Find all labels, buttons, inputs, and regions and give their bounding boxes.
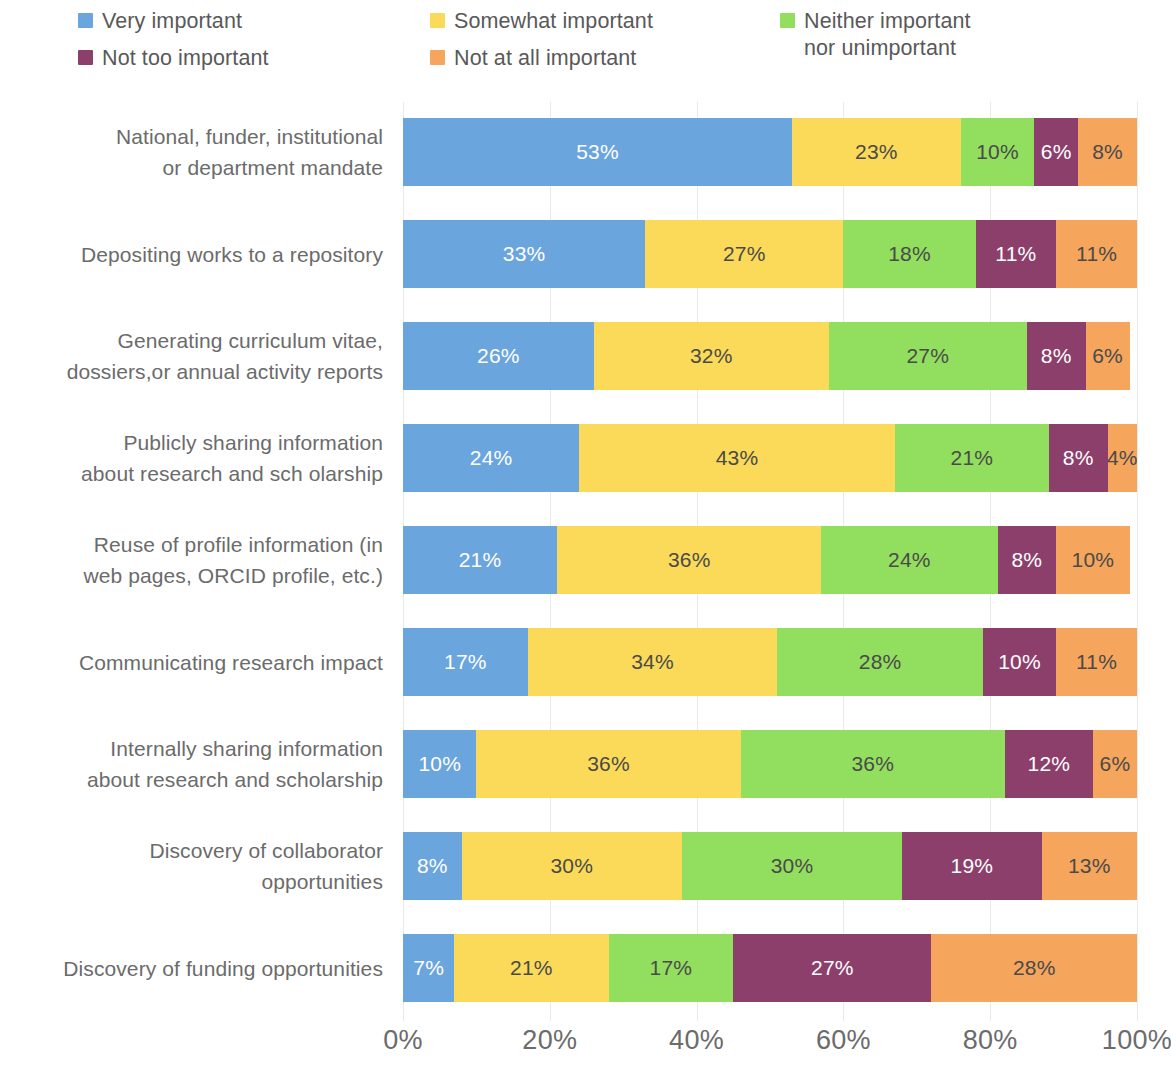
- bar-segment: 53%: [403, 118, 792, 186]
- bar-segment-value: 27%: [811, 956, 854, 980]
- category-label-line: opportunities: [261, 866, 383, 897]
- bar-segment-value: 8%: [417, 854, 448, 878]
- category-label-line: Depositing works to a repository: [81, 239, 383, 270]
- bar-segment: 10%: [961, 118, 1034, 186]
- bar-row: Discovery of funding opportunities7%21%1…: [0, 934, 1171, 1002]
- bar-segment-value: 34%: [631, 650, 674, 674]
- stacked-bar: 17%34%28%10%11%: [403, 628, 1137, 696]
- stacked-bar: 21%36%24%8%10%: [403, 526, 1137, 594]
- bar-segment: 11%: [1056, 628, 1137, 696]
- bar-segment-value: 12%: [1028, 752, 1071, 776]
- category-label: Publicly sharing informationabout resear…: [0, 424, 383, 492]
- bar-segment-value: 10%: [998, 650, 1041, 674]
- legend-item-label: Very important: [102, 8, 242, 35]
- legend-swatch-very-important: [78, 13, 93, 28]
- bar-segment-value: 23%: [855, 140, 898, 164]
- bar-segment: 32%: [594, 322, 829, 390]
- bar-segment-value: 8%: [1011, 548, 1042, 572]
- bar-segment: 11%: [1056, 220, 1137, 288]
- bar-segment-value: 30%: [771, 854, 814, 878]
- bar-segment-value: 4%: [1108, 446, 1137, 470]
- stacked-bar: 8%30%30%19%13%: [403, 832, 1137, 900]
- bar-segment: 30%: [462, 832, 682, 900]
- bar-segment: 4%: [1108, 424, 1137, 492]
- bar-segment-value: 11%: [1076, 242, 1117, 266]
- bar-segment: 8%: [998, 526, 1057, 594]
- bar-segment-value: 18%: [888, 242, 931, 266]
- bar-segment: 26%: [403, 322, 594, 390]
- bar-segment-value: 8%: [1092, 140, 1123, 164]
- legend-item-0[interactable]: Very important: [78, 8, 242, 35]
- bar-segment-value: 17%: [650, 956, 693, 980]
- legend-item-label: Not at all important: [454, 45, 636, 72]
- category-label-line: dossiers,or annual activity reports: [67, 356, 383, 387]
- bar-segment: 6%: [1034, 118, 1078, 186]
- bar-segment-value: 21%: [459, 548, 502, 572]
- bar-segment: 6%: [1093, 730, 1137, 798]
- category-label-line: National, funder, institutional: [116, 121, 383, 152]
- bar-segment-value: 10%: [418, 752, 461, 776]
- x-axis-tick-label: 20%: [522, 1025, 577, 1056]
- category-label-line: Discovery of funding opportunities: [63, 953, 383, 984]
- bar-row: National, funder, institutionalor depart…: [0, 118, 1171, 186]
- bar-segment: 28%: [777, 628, 983, 696]
- bar-segment-value: 32%: [690, 344, 733, 368]
- bar-segment: 30%: [682, 832, 902, 900]
- bar-segment: 8%: [1049, 424, 1108, 492]
- bar-segment: 43%: [579, 424, 895, 492]
- x-axis-tick-label: 60%: [816, 1025, 871, 1056]
- bar-row: Communicating research impact17%34%28%10…: [0, 628, 1171, 696]
- legend-swatch-not-too-important: [78, 50, 93, 65]
- category-label: Depositing works to a repository: [0, 220, 383, 288]
- x-axis-tick-label: 0%: [383, 1025, 423, 1056]
- bar-segment-value: 19%: [951, 854, 994, 878]
- legend-item-label: Neither important nor unimportant: [804, 8, 971, 62]
- bar-segment-value: 11%: [995, 242, 1036, 266]
- category-label-line: Discovery of collaborator: [149, 835, 383, 866]
- bar-row: Publicly sharing informationabout resear…: [0, 424, 1171, 492]
- legend-item-label: Not too important: [102, 45, 269, 72]
- bar-segment: 28%: [931, 934, 1137, 1002]
- stacked-bar-chart: Very importantSomewhat importantNeither …: [0, 0, 1171, 1073]
- bar-segment-value: 36%: [587, 752, 630, 776]
- bar-segment: 12%: [1005, 730, 1093, 798]
- legend-item-2[interactable]: Neither important nor unimportant: [780, 8, 971, 62]
- bar-segment-value: 24%: [888, 548, 931, 572]
- category-label-line: Communicating research impact: [79, 647, 383, 678]
- bar-segment-value: 11%: [1076, 650, 1117, 674]
- bar-segment-value: 6%: [1041, 140, 1072, 164]
- bar-segment-value: 21%: [951, 446, 994, 470]
- x-axis-tick-label: 40%: [669, 1025, 724, 1056]
- bar-row: Depositing works to a repository33%27%18…: [0, 220, 1171, 288]
- category-label: Discovery of collaboratoropportunities: [0, 832, 383, 900]
- bar-segment: 24%: [821, 526, 997, 594]
- bar-segment: 34%: [528, 628, 778, 696]
- bar-segment: 24%: [403, 424, 579, 492]
- legend-swatch-neither-important: [780, 13, 795, 28]
- bar-segment-value: 28%: [859, 650, 902, 674]
- bar-segment-value: 27%: [723, 242, 766, 266]
- bar-segment-value: 7%: [413, 956, 444, 980]
- legend-item-4[interactable]: Not at all important: [430, 45, 636, 72]
- legend-item-3[interactable]: Not too important: [78, 45, 269, 72]
- category-label: Internally sharing informationabout rese…: [0, 730, 383, 798]
- category-label-line: web pages, ORCID profile, etc.): [83, 560, 383, 591]
- stacked-bar: 10%36%36%12%6%: [403, 730, 1137, 798]
- bar-segment-value: 36%: [851, 752, 894, 776]
- bar-segment-value: 53%: [576, 140, 619, 164]
- bar-segment: 10%: [983, 628, 1056, 696]
- x-axis-tick-label: 100%: [1102, 1025, 1171, 1056]
- bar-segment: 10%: [403, 730, 476, 798]
- legend-item-1[interactable]: Somewhat important: [430, 8, 653, 35]
- category-label: Communicating research impact: [0, 628, 383, 696]
- category-label: National, funder, institutionalor depart…: [0, 118, 383, 186]
- bar-segment-value: 21%: [510, 956, 553, 980]
- bar-segment: 8%: [1027, 322, 1086, 390]
- bar-segment: 17%: [609, 934, 734, 1002]
- legend-item-label: Somewhat important: [454, 8, 653, 35]
- category-label-line: or department mandate: [163, 152, 383, 183]
- bar-segment: 21%: [454, 934, 608, 1002]
- bar-segment: 33%: [403, 220, 645, 288]
- bar-segment-value: 13%: [1068, 854, 1111, 878]
- bar-segment-value: 10%: [1072, 548, 1115, 572]
